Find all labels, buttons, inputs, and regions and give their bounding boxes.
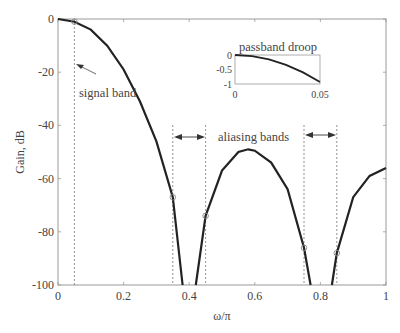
- arrowhead-left-icon: [305, 132, 313, 138]
- inset-title: passband droop: [239, 40, 317, 54]
- inset-y-tick-label: -1: [224, 79, 232, 90]
- arrowhead-right-icon: [197, 134, 205, 140]
- gain-chart: 00.20.40.60.81 0-20-40-60-80-100 ω/π Gai…: [0, 0, 400, 333]
- signal-band-arrow: [80, 66, 96, 74]
- inset-x-tick-label: 0.05: [311, 89, 329, 100]
- y-tick-label: -40: [38, 118, 54, 132]
- aliasing-bands-annotation: aliasing bands: [174, 130, 336, 144]
- x-tick-label: 1: [383, 289, 389, 303]
- aliasing-bands-label: aliasing bands: [218, 130, 289, 144]
- signal-band-label: signal band: [79, 86, 137, 100]
- inset-frame: [235, 55, 320, 84]
- inset-y-tick-label: 0: [227, 50, 232, 61]
- x-tick-label: 0.8: [313, 289, 328, 303]
- arrowhead-left-icon: [174, 134, 182, 140]
- y-tick-label: -100: [32, 278, 54, 292]
- y-tick-label: -80: [38, 225, 54, 239]
- y-axis-ticks: 0-20-40-60-80-100: [32, 12, 386, 292]
- inset-y-tick-label: -0.5: [216, 64, 232, 75]
- y-tick-label: 0: [48, 12, 54, 26]
- inset-passband-droop: passband droop 0-0.5-100.05: [216, 40, 329, 100]
- x-tick-label: 0.6: [247, 289, 262, 303]
- x-tick-label: 0.4: [182, 289, 197, 303]
- arrowhead-right-icon: [328, 132, 336, 138]
- signal-band-annotation: signal band: [76, 64, 137, 100]
- x-tick-label: 0.2: [116, 289, 131, 303]
- y-tick-label: -60: [38, 172, 54, 186]
- x-tick-label: 0: [55, 289, 61, 303]
- x-axis-ticks: 00.20.40.60.81: [55, 19, 389, 303]
- inset-x-tick-label: 0: [233, 89, 238, 100]
- y-axis-label: Gain, dB: [13, 130, 27, 173]
- y-tick-label: -20: [38, 65, 54, 79]
- x-axis-label: ω/π: [213, 309, 230, 323]
- arrowhead-icon: [76, 64, 84, 69]
